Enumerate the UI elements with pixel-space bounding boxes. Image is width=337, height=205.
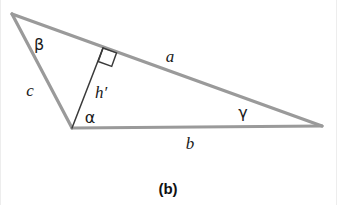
triangle-diagram — [0, 0, 337, 205]
figure-caption: (b) — [158, 181, 177, 196]
figure-container: a b c h′ α β γ (b) — [0, 0, 337, 205]
label-angle-alpha: α — [85, 110, 96, 126]
label-altitude-h-prime: h′ — [95, 84, 107, 101]
label-side-c: c — [26, 82, 34, 99]
label-side-b: b — [186, 135, 195, 152]
side-a-line — [12, 14, 322, 126]
label-angle-gamma: γ — [238, 105, 247, 121]
side-b-line — [72, 126, 322, 128]
label-angle-beta: β — [34, 37, 44, 53]
label-side-a: a — [166, 48, 175, 65]
triangle-outline — [12, 14, 322, 128]
